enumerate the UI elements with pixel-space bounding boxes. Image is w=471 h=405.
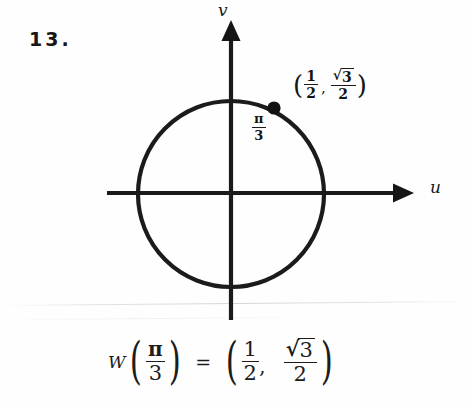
point-close-paren: ) [357, 70, 367, 100]
radicand-value: 3 [341, 68, 354, 84]
tuple-close-paren: ) [321, 341, 333, 382]
result-radical-expression: √ 3 [286, 338, 315, 361]
point-second-numerator: √ 3 [331, 68, 356, 86]
result-first-denominator: 2 [242, 362, 259, 385]
v-axis-label: v [218, 0, 228, 20]
result-second-numerator: √ 3 [284, 338, 317, 363]
v-axis-arrowhead [222, 20, 241, 41]
angle-fraction: π 3 [252, 112, 266, 142]
equals-sign: = [195, 351, 211, 373]
point-comma: , [321, 79, 326, 97]
point-open-paren: ( [293, 70, 303, 100]
argument-open-paren: ( [130, 341, 142, 382]
tuple-open-paren: ( [226, 341, 238, 382]
point-first-denominator: 2 [304, 85, 318, 101]
result-second-denominator: 2 [292, 363, 309, 386]
radical-expression: √ 3 [333, 68, 354, 84]
argument-denominator: 3 [147, 362, 164, 385]
tuple-comma: , [259, 354, 266, 378]
argument-fraction: π 3 [146, 339, 165, 385]
result-radical-sign-icon: √ [286, 338, 300, 359]
argument-numerator: π [146, 339, 165, 362]
result-first-coordinate: 1 2 [242, 339, 259, 386]
result-first-numerator: 1 [242, 339, 259, 363]
wrapping-function-equation: W ( π 3 ) = ( 1 2 , √ 3 2 ) [108, 338, 336, 386]
point-second-denominator: 2 [336, 86, 350, 102]
terminal-point-dot [267, 101, 280, 114]
argument-close-paren: ) [168, 341, 180, 382]
u-axis-label: u [430, 177, 441, 197]
worksheet-page: 13. v u π 3 ( 1 2 , √ [0, 0, 471, 405]
u-axis-arrowhead [393, 184, 414, 203]
point-second-coordinate: √ 3 2 [331, 68, 356, 102]
result-radicand-value: 3 [298, 338, 314, 361]
angle-measure-label: π 3 [252, 112, 266, 142]
result-second-coordinate: √ 3 2 [284, 338, 317, 386]
function-name: W [108, 352, 125, 372]
point-coordinate-label: ( 1 2 , √ 3 2 ) [293, 68, 367, 102]
point-first-coordinate: 1 2 [304, 69, 318, 101]
point-first-numerator: 1 [304, 69, 318, 86]
angle-denominator: 3 [252, 128, 265, 143]
angle-numerator: π [252, 112, 266, 128]
